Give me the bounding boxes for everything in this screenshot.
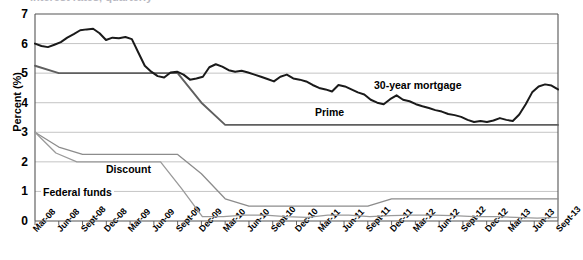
- series-line-30-year-mortgage: [35, 29, 558, 122]
- series-line-federal-funds: [35, 132, 558, 218]
- series-label-prime: Prime: [313, 106, 346, 118]
- series-label-30-year-mortgage: 30-year mortgage: [372, 79, 464, 91]
- series-line-prime: [35, 66, 558, 125]
- series-label-discount: Discount: [104, 163, 153, 175]
- series-label-federal-funds: Federal funds: [41, 186, 114, 198]
